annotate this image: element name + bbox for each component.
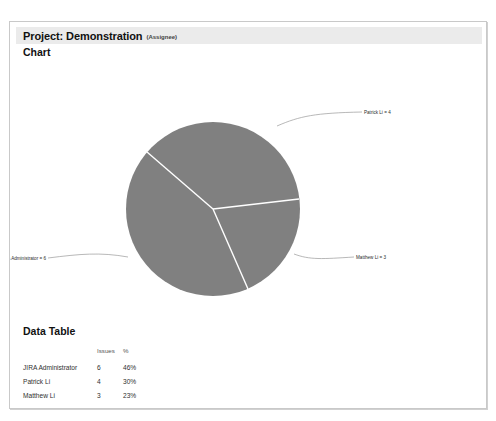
pie-chart-svg: Patrick Li = 4 JIRA Administrator = 6 Ma… <box>10 60 488 325</box>
table-header-row: Issues % <box>23 347 153 360</box>
leader-line-matthew <box>294 254 354 259</box>
leader-line-jira-admin <box>48 254 128 258</box>
cell-percent: 46% <box>123 360 153 374</box>
cell-issue-count: 6 <box>97 360 123 374</box>
report-card: Project: Demonstration (Assignee) Chart … <box>9 21 487 409</box>
data-table: Issues % JIRA Administrator 6 46% Patric… <box>23 347 153 402</box>
cell-assignee-name: Matthew Li <box>23 388 97 402</box>
pie-label-matthew: Matthew Li = 3 <box>356 255 386 260</box>
report-header: Project: Demonstration (Assignee) <box>16 27 482 44</box>
leader-line-patrick <box>277 112 362 126</box>
cell-issue-count: 4 <box>97 374 123 388</box>
page-title-qualifier: (Assignee) <box>146 34 177 40</box>
data-table-heading: Data Table <box>23 325 273 337</box>
page-title: Project: Demonstration <box>23 30 142 42</box>
cell-assignee-name: JIRA Administrator <box>23 360 97 374</box>
data-table-block: Data Table Issues % JIRA Administrator 6… <box>23 325 273 402</box>
cell-percent: 30% <box>123 374 153 388</box>
pie-chart-area: Patrick Li = 4 JIRA Administrator = 6 Ma… <box>10 60 488 325</box>
table-row: Patrick Li 4 30% <box>23 374 153 388</box>
cell-percent: 23% <box>123 388 153 402</box>
table-row: JIRA Administrator 6 46% <box>23 360 153 374</box>
column-header-name <box>23 347 97 360</box>
pie-slices <box>126 122 300 296</box>
chart-section-heading: Chart <box>23 46 50 58</box>
column-header-issues: Issues <box>97 347 123 360</box>
column-header-percent: % <box>123 347 153 360</box>
pie-label-jira-admin: JIRA Administrator = 6 <box>10 256 46 261</box>
cell-issue-count: 3 <box>97 388 123 402</box>
table-row: Matthew Li 3 23% <box>23 388 153 402</box>
pie-label-patrick: Patrick Li = 4 <box>364 110 391 115</box>
cell-assignee-name: Patrick Li <box>23 374 97 388</box>
